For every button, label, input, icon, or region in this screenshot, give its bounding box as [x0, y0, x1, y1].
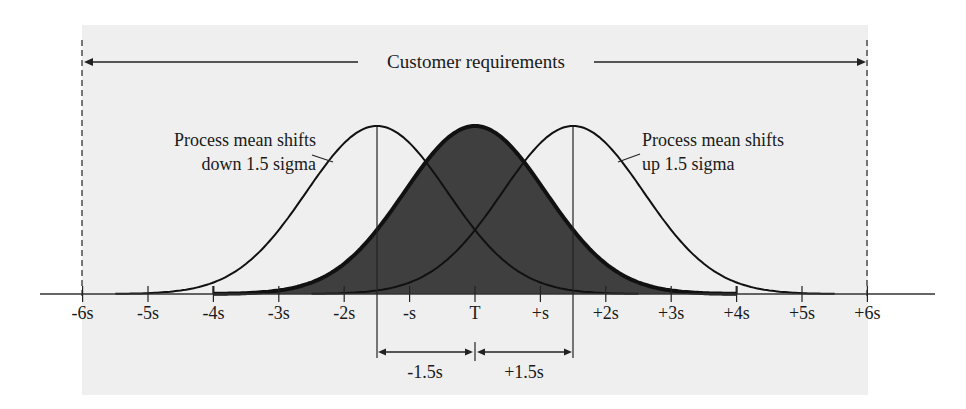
- arrow-left-icon: [84, 58, 93, 66]
- x-tick-label: -6s: [72, 303, 94, 323]
- distribution-curves: [115, 126, 834, 294]
- centered-distribution-fill: [213, 126, 736, 294]
- x-tick-label: +5s: [789, 303, 815, 323]
- annotation-down-line2: down 1.5 sigma: [202, 154, 317, 174]
- annotation-down-shift: Process mean shifts down 1.5 sigma: [174, 130, 333, 174]
- six-sigma-shift-chart: Customer requirements Process mean shift…: [0, 0, 966, 409]
- x-tick-label: +2s: [593, 303, 619, 323]
- customer-requirements-label: Customer requirements: [387, 51, 565, 72]
- x-tick-label: -2s: [333, 303, 355, 323]
- arrow-right-icon: [857, 58, 866, 66]
- annotation-down-line1: Process mean shifts: [174, 130, 316, 150]
- annotation-up-leader: [618, 154, 640, 162]
- x-tick-label: T: [470, 303, 481, 323]
- plus-shift-label: +1.5s: [504, 362, 544, 382]
- x-tick-label: -4s: [202, 303, 224, 323]
- x-tick-label: -3s: [268, 303, 290, 323]
- annotation-up-line2: up 1.5 sigma: [642, 154, 735, 174]
- x-tick-label: +3s: [658, 303, 684, 323]
- x-tick-label: -s: [403, 303, 416, 323]
- x-tick-label: +6s: [854, 303, 880, 323]
- x-tick-label: +s: [532, 303, 549, 323]
- minus-shift-label: -1.5s: [407, 362, 443, 382]
- annotation-up-line1: Process mean shifts: [642, 130, 784, 150]
- x-tick-label: -5s: [137, 303, 159, 323]
- annotation-up-shift: Process mean shifts up 1.5 sigma: [618, 130, 784, 174]
- x-tick-label: +4s: [724, 303, 750, 323]
- customer-requirements-arrow: Customer requirements: [84, 51, 866, 72]
